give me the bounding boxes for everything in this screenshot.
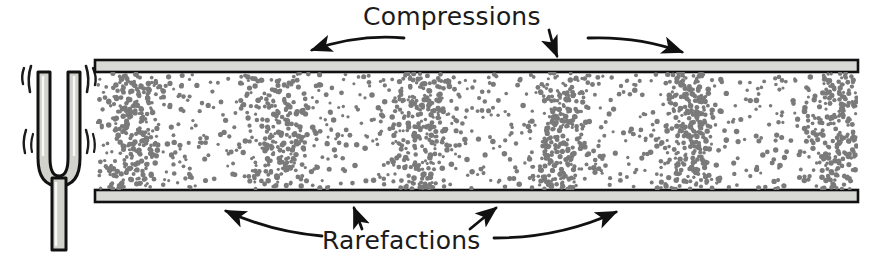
arrow-compression-mid	[549, 30, 557, 56]
arrow-rarefaction-far-right	[494, 212, 616, 238]
fork-stem	[52, 178, 66, 250]
tuning-fork	[22, 66, 95, 250]
air-particles	[96, 71, 859, 192]
arrow-compression-left	[312, 37, 404, 50]
compression-arrows	[312, 30, 682, 56]
vibration-marks-icon	[22, 66, 95, 153]
tube-bottom-wall	[95, 190, 858, 202]
arrow-compression-right	[588, 38, 682, 52]
label-compressions: Compressions	[363, 2, 541, 31]
label-rarefactions: Rarefactions	[322, 226, 480, 255]
arrow-rarefaction-far-left	[226, 211, 322, 236]
tube-top-wall	[95, 60, 858, 72]
